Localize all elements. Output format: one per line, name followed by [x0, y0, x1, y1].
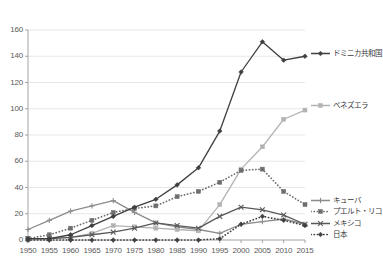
data-point-marker	[260, 219, 265, 224]
data-point-marker	[319, 104, 323, 108]
legend-label: ドミニカ共和国	[333, 49, 382, 58]
data-point-marker	[154, 204, 158, 208]
data-point-marker	[90, 238, 95, 243]
data-point-marker	[303, 203, 307, 207]
legend-item-3[interactable]: プエルト・リコ	[311, 207, 382, 216]
data-point-marker	[239, 168, 243, 172]
data-point-marker	[303, 108, 307, 112]
data-point-marker	[111, 238, 116, 243]
data-point-marker	[282, 117, 286, 121]
line-chart: 020406080100120140160 195019551960196519…	[0, 0, 383, 265]
legend-item-4[interactable]: メキシコ	[311, 219, 361, 228]
data-point-marker	[47, 218, 52, 223]
y-axis-tick-label: 120	[0, 78, 23, 87]
data-point-marker	[217, 231, 222, 236]
data-point-marker	[303, 54, 308, 59]
legend-swatch-icon	[311, 49, 330, 58]
y-axis-tick-label: 60	[0, 156, 23, 165]
y-axis-tick-label: 40	[0, 183, 23, 192]
legend-label: キューバ	[333, 196, 361, 205]
y-axis-tick-label: 100	[0, 104, 23, 113]
data-point-marker	[260, 214, 265, 219]
legend-swatch-icon	[311, 101, 330, 110]
legend-label: 日本	[333, 230, 347, 239]
data-point-marker	[217, 214, 222, 219]
data-point-marker	[111, 214, 116, 219]
data-point-marker	[196, 238, 201, 243]
legend-label: プエルト・リコ	[333, 207, 382, 216]
data-point-marker	[25, 227, 30, 232]
data-point-marker	[218, 180, 222, 184]
legend-label: ベネズエラ	[333, 101, 368, 110]
data-point-marker	[90, 223, 95, 228]
data-point-marker	[154, 238, 159, 243]
y-axis-tick-label: 20	[0, 209, 23, 218]
y-axis-tick-label: 0	[0, 235, 23, 244]
legend-swatch-icon	[311, 196, 330, 205]
data-point-marker	[282, 189, 286, 193]
data-point-marker	[318, 51, 323, 56]
y-axis-tick-label: 140	[0, 51, 23, 60]
series-line	[28, 110, 305, 240]
legend-item-2[interactable]: キューバ	[311, 196, 361, 205]
legend-swatch-icon	[311, 207, 330, 216]
data-point-marker	[111, 224, 115, 228]
data-point-marker	[318, 232, 323, 237]
legend-swatch-icon	[311, 219, 330, 228]
data-point-marker	[175, 238, 180, 243]
x-axis-tick-label: 2015	[293, 246, 317, 255]
data-point-marker	[111, 198, 116, 203]
data-point-marker	[132, 238, 137, 243]
data-point-marker	[154, 226, 158, 230]
legend-item-1[interactable]: ベネズエラ	[311, 101, 368, 110]
data-point-marker	[69, 226, 73, 230]
data-point-marker	[89, 203, 94, 208]
legend-swatch-icon	[311, 230, 330, 239]
data-point-marker	[318, 198, 323, 203]
series-3	[26, 167, 307, 241]
data-point-marker	[260, 167, 264, 171]
data-point-marker	[196, 189, 200, 193]
legend-item-5[interactable]: 日本	[311, 230, 347, 239]
data-point-marker	[218, 203, 222, 207]
legend-label: メキシコ	[333, 219, 361, 228]
data-point-marker	[175, 195, 179, 199]
y-axis-tick-label: 80	[0, 130, 23, 139]
data-point-marker	[260, 145, 264, 149]
data-point-marker	[90, 218, 94, 222]
data-point-marker	[175, 228, 179, 232]
legend-item-0[interactable]: ドミニカ共和国	[311, 49, 382, 58]
data-point-marker	[319, 210, 323, 214]
data-point-marker	[68, 209, 73, 214]
y-axis-tick-label: 160	[0, 25, 23, 34]
